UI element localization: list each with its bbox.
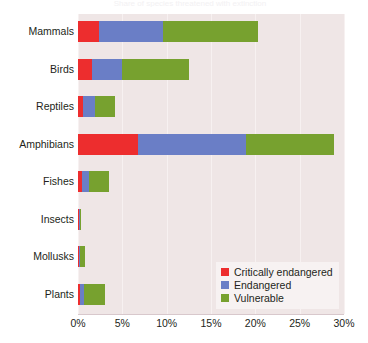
- threatened-species-chart: Share of species threatened with extinct…: [0, 0, 368, 343]
- chart-title-cropped: Share of species threatened with extinct…: [60, 0, 320, 7]
- x-tick-20: 20%: [235, 317, 275, 329]
- stacked-bar: [78, 96, 115, 117]
- y-axis-label-mollusks: Mollusks: [0, 246, 74, 267]
- y-axis-label-amphibians: Amphibians: [0, 134, 74, 155]
- bar-segment: [122, 59, 189, 80]
- x-tick-10: 10%: [147, 317, 187, 329]
- bar-segment: [163, 21, 258, 42]
- y-axis-label-insects: Insects: [0, 209, 74, 230]
- x-tick-15: 15%: [191, 317, 231, 329]
- stacked-bar: [78, 171, 109, 192]
- y-axis-label-plants: Plants: [0, 284, 74, 305]
- x-tick-0: 0%: [58, 317, 98, 329]
- legend-item: Critically endangered: [221, 266, 333, 279]
- stacked-bar: [78, 284, 105, 305]
- bar-segment: [83, 96, 95, 117]
- bar-row: [78, 59, 344, 80]
- y-axis-label-reptiles: Reptiles: [0, 96, 74, 117]
- bar-segment: [84, 284, 105, 305]
- stacked-bar: [78, 209, 80, 230]
- legend-swatch-icon: [221, 268, 229, 276]
- bar-segment: [95, 96, 115, 117]
- x-tick-30: 30%: [324, 317, 364, 329]
- bar-segment: [138, 134, 245, 155]
- chart-legend: Critically endangeredEndangeredVulnerabl…: [216, 262, 339, 309]
- y-axis-label-fishes: Fishes: [0, 171, 74, 192]
- bar-row: [78, 209, 344, 230]
- bar-segment: [82, 171, 89, 192]
- bar-row: [78, 21, 344, 42]
- stacked-bar: [78, 134, 334, 155]
- gridline-30: [344, 14, 345, 314]
- y-axis-category-labels: MammalsBirdsReptilesAmphibiansFishesInse…: [0, 14, 74, 314]
- bar-segment: [78, 21, 99, 42]
- legend-label: Vulnerable: [234, 292, 284, 305]
- y-axis-label-mammals: Mammals: [0, 21, 74, 42]
- stacked-bar: [78, 246, 85, 267]
- legend-label: Critically endangered: [234, 266, 333, 279]
- bar-segment: [80, 209, 81, 230]
- x-axis-line: [78, 314, 344, 315]
- stacked-bar: [78, 59, 189, 80]
- legend-item: Endangered: [221, 279, 333, 292]
- bar-segment: [78, 134, 138, 155]
- x-tick-5: 5%: [102, 317, 142, 329]
- bar-segment: [246, 134, 335, 155]
- legend-swatch-icon: [221, 294, 229, 302]
- x-axis-tick-labels: 0%5%10%15%20%25%30%: [0, 317, 368, 333]
- legend-label: Endangered: [234, 279, 291, 292]
- bar-segment: [92, 59, 122, 80]
- bar-segment: [99, 21, 163, 42]
- bar-segment: [89, 171, 109, 192]
- stacked-bar: [78, 21, 258, 42]
- bar-row: [78, 134, 344, 155]
- x-tick-25: 25%: [280, 317, 320, 329]
- bar-segment: [80, 246, 85, 267]
- legend-swatch-icon: [221, 281, 229, 289]
- bar-segment: [78, 59, 92, 80]
- bar-row: [78, 96, 344, 117]
- bar-row: [78, 171, 344, 192]
- y-axis-label-birds: Birds: [0, 59, 74, 80]
- legend-item: Vulnerable: [221, 292, 333, 305]
